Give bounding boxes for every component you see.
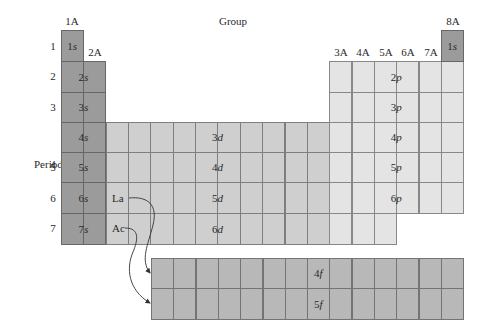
la-to-4f-arrow	[129, 198, 154, 273]
connector-arrows	[0, 0, 479, 335]
